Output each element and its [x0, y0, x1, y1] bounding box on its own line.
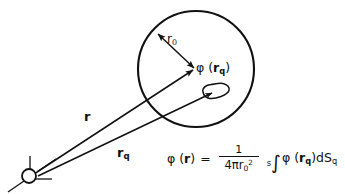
integrand: φ (rq)dSq: [282, 150, 337, 166]
radius-subscript: 0: [172, 38, 177, 47]
vector-r-symbol: r: [84, 109, 90, 124]
vector-r-label: r: [84, 110, 90, 123]
radius-label: r0: [167, 33, 177, 47]
equation-lhs-suffix: ): [190, 151, 195, 166]
equation-lhs: φ (r): [167, 151, 195, 166]
figure-canvas: r0 φ (rq) r rq φ (r) = 1 4πr02 s ∫ φ (rq…: [0, 0, 345, 194]
prefactor-fraction: 1 4πr02: [219, 144, 259, 173]
phi-suffix: ): [225, 60, 230, 75]
phi-prefix: φ (: [196, 60, 213, 75]
integral-sign: ∫: [271, 155, 281, 169]
equals-sign: =: [200, 151, 210, 166]
fraction-denominator: 4πr02: [224, 157, 252, 172]
differential-prefix: d: [316, 150, 324, 165]
denominator-superscript: 2: [248, 158, 253, 167]
surface-potential-label: φ (rq): [196, 62, 230, 76]
origin-marker: [22, 169, 36, 183]
denominator-prefix: 4π: [224, 158, 238, 172]
vector-rq-subscript: q: [123, 151, 129, 161]
mean-value-equation: φ (r) = 1 4πr02 s ∫ φ (rq)dSq: [167, 144, 337, 173]
integral-group: s ∫ φ (rq)dSq: [267, 150, 338, 166]
differential-symbol: S: [324, 150, 332, 165]
equation-lhs-prefix: φ (: [167, 151, 184, 166]
vector-rq-label: rq: [117, 146, 130, 161]
differential-subscript: q: [332, 157, 337, 167]
integrand-prefix: φ (: [282, 150, 299, 165]
fraction-numerator: 1: [235, 144, 242, 156]
